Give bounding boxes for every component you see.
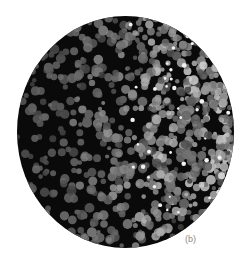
circular-micrograph [17, 16, 234, 248]
panel-label: (b) [185, 234, 196, 244]
micrograph-figure: (b) [0, 0, 249, 271]
cell-texture [17, 16, 234, 248]
